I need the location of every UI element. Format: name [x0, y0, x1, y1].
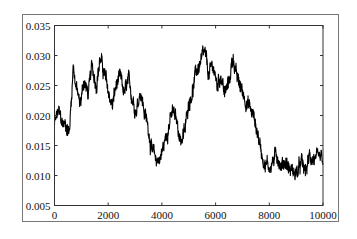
x-tick-label: 4000 [151, 209, 174, 221]
y-tick-label: 0.035 [26, 20, 51, 32]
y-tick-label: 0.015 [26, 140, 51, 152]
x-tick-label: 10000 [309, 209, 337, 221]
y-tick-label: 0.005 [26, 200, 51, 212]
y-tick-label: 0.010 [26, 170, 51, 182]
x-tick-label: 6000 [205, 209, 228, 221]
y-tick-label: 0.030 [26, 50, 51, 62]
y-tick-label: 0.020 [26, 110, 51, 122]
x-tick-label: 2000 [97, 209, 120, 221]
x-tick-label: 8000 [258, 209, 281, 221]
y-tick-label: 0.025 [26, 80, 51, 92]
line-chart: 0.0050.0100.0150.0200.0250.0300.035 0200… [0, 0, 357, 239]
x-tick-label: 0 [52, 209, 58, 221]
